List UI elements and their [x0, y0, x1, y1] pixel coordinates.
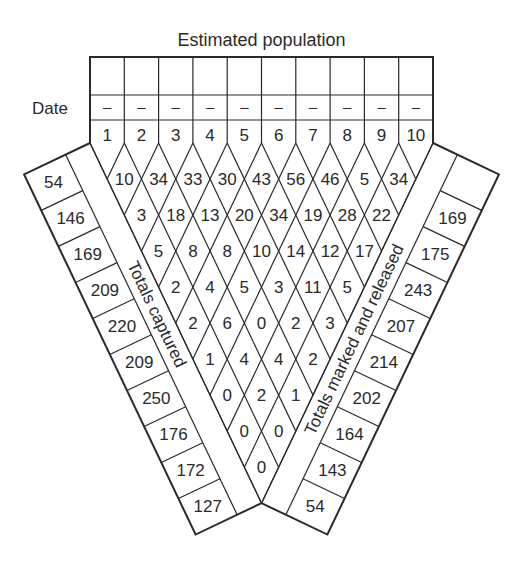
estimated-population-cell[interactable] — [125, 58, 157, 94]
date-cell: – — [240, 98, 249, 115]
recapture-count: 2 — [257, 386, 266, 405]
recapture-count: 2 — [308, 350, 317, 369]
column-10: –10 — [400, 58, 432, 145]
column-number: 5 — [240, 126, 249, 145]
date-cell: – — [412, 98, 421, 115]
header-table: Estimated populationDate–1–2–3–4–5–6–7–8… — [32, 30, 433, 145]
diagram-title: Estimated population — [177, 30, 345, 50]
right-total-cell[interactable] — [452, 171, 488, 195]
total-captured-value: 169 — [74, 245, 102, 264]
recapture-count: 0 — [257, 458, 266, 477]
recapture-lattice: 1034333043564653431813203419282258810141… — [90, 143, 433, 503]
diagram-canvas: Estimated populationDate–1–2–3–4–5–6–7–8… — [0, 0, 532, 565]
recapture-count: 18 — [166, 206, 185, 225]
lattice-row-3: 58810141217 — [154, 242, 374, 261]
date-cell: – — [343, 98, 352, 115]
recapture-count: 34 — [269, 206, 288, 225]
column-9: –9 — [365, 58, 397, 145]
total-released-value: 202 — [352, 389, 380, 408]
recapture-count: 10 — [115, 170, 134, 189]
column-6: –6 — [263, 58, 295, 145]
recapture-count: 34 — [149, 170, 168, 189]
estimated-population-cell[interactable] — [365, 58, 397, 94]
lattice-row-9: 0 — [257, 458, 266, 477]
estimated-population-cell[interactable] — [194, 58, 226, 94]
total-captured-value: 176 — [159, 425, 187, 444]
lattice-row-7: 021 — [222, 386, 300, 405]
estimated-population-cell[interactable] — [263, 58, 295, 94]
column-number: 1 — [102, 126, 111, 145]
recapture-count: 5 — [360, 170, 369, 189]
right-totals-strip: 16917524320721420216414354Totals marked … — [262, 143, 499, 535]
date-cell: – — [137, 98, 146, 115]
total-captured-value: 54 — [44, 173, 63, 192]
total-released-value: 169 — [438, 209, 466, 228]
column-number: 8 — [343, 126, 352, 145]
date-row-label: Date — [32, 99, 68, 118]
recapture-count: 19 — [303, 206, 322, 225]
column-2: –2 — [125, 58, 157, 145]
recapture-count: 30 — [218, 170, 237, 189]
recapture-count: 28 — [338, 206, 357, 225]
population-estimation-diagram: Estimated populationDate–1–2–3–4–5–6–7–8… — [0, 0, 532, 565]
recapture-count: 17 — [355, 242, 374, 261]
column-number: 3 — [171, 126, 180, 145]
total-released-value: 243 — [404, 281, 432, 300]
column-8: –8 — [331, 58, 363, 145]
recapture-count: 13 — [201, 206, 220, 225]
recapture-count: 5 — [240, 278, 249, 297]
recapture-count: 8 — [222, 242, 231, 261]
left-totals-strip: 54146169209220209250176172127Totals capt… — [24, 143, 261, 535]
total-released-value: 175 — [421, 245, 449, 264]
recapture-count: 43 — [252, 170, 271, 189]
recapture-count: 20 — [235, 206, 254, 225]
total-released-value: 164 — [335, 425, 363, 444]
recapture-count: 4 — [274, 350, 283, 369]
column-number: 10 — [406, 126, 425, 145]
recapture-count: 12 — [321, 242, 340, 261]
date-cell: – — [103, 98, 112, 115]
column-4: –4 — [194, 58, 226, 145]
lattice-row-2: 318132034192822 — [137, 206, 391, 225]
recapture-count: 8 — [188, 242, 197, 261]
total-captured-value: 250 — [142, 389, 170, 408]
column-number: 9 — [377, 126, 386, 145]
recapture-count: 3 — [325, 314, 334, 333]
date-cell: – — [377, 98, 386, 115]
total-captured-value: 146 — [56, 209, 84, 228]
recapture-count: 5 — [154, 242, 163, 261]
date-cell: – — [206, 98, 215, 115]
recapture-count: 0 — [240, 422, 249, 441]
recapture-count: 56 — [286, 170, 305, 189]
total-released-value: 54 — [306, 497, 325, 516]
column-7: –7 — [297, 58, 329, 145]
recapture-count: 2 — [291, 314, 300, 333]
date-cell: – — [274, 98, 283, 115]
estimated-population-cell[interactable] — [228, 58, 260, 94]
recapture-count: 10 — [252, 242, 271, 261]
recapture-count: 34 — [389, 170, 408, 189]
column-number: 4 — [205, 126, 214, 145]
estimated-population-cell[interactable] — [297, 58, 329, 94]
recapture-count: 2 — [188, 314, 197, 333]
total-captured-value: 209 — [125, 353, 153, 372]
estimated-population-cell[interactable] — [400, 58, 432, 94]
column-3: –3 — [160, 58, 192, 145]
total-released-value: 207 — [387, 317, 415, 336]
recapture-count: 33 — [183, 170, 202, 189]
lattice-line — [141, 143, 192, 251]
estimated-population-cell[interactable] — [91, 58, 123, 94]
recapture-count: 14 — [286, 242, 305, 261]
lattice-row-1: 10343330435646534 — [115, 170, 408, 189]
recapture-count: 22 — [372, 206, 391, 225]
recapture-count: 3 — [274, 278, 283, 297]
recapture-count: 0 — [222, 386, 231, 405]
column-number: 7 — [308, 126, 317, 145]
column-5: –5 — [228, 58, 260, 145]
total-captured-value: 209 — [91, 281, 119, 300]
estimated-population-cell[interactable] — [331, 58, 363, 94]
total-released-value: 143 — [318, 461, 346, 480]
recapture-count: 6 — [222, 314, 231, 333]
recapture-count: 2 — [171, 278, 180, 297]
estimated-population-cell[interactable] — [160, 58, 192, 94]
